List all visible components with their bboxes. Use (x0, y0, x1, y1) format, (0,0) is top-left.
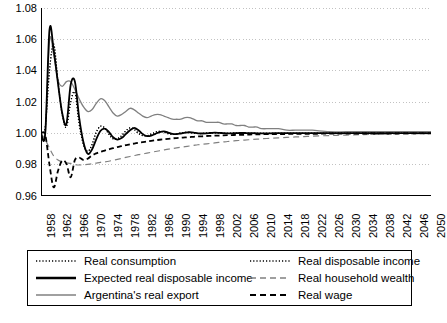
x-axis-tick-label: 1998 (215, 214, 226, 238)
legend-label: Argentina's real export (84, 289, 199, 301)
legend-item[interactable]: Real consumption (34, 255, 248, 267)
series-line-real-consumption (41, 44, 431, 151)
legend-line-swatch (248, 289, 292, 301)
legend-item[interactable]: Expected real disposable income (34, 272, 248, 284)
x-axis-labels: 1958196219661970197419781982198619901994… (41, 198, 433, 242)
y-axis-tick-label: 1.08 (0, 3, 37, 14)
y-axis-tick-label: 1.00 (0, 128, 37, 139)
x-axis-tick-label: 2022 (317, 214, 328, 238)
y-axis-tick-label: 1.06 (0, 34, 37, 45)
legend-item[interactable]: Real household wealth (248, 272, 420, 284)
legend-line-swatch (34, 289, 78, 301)
x-axis-tick-label: 2034 (368, 214, 379, 238)
legend-label: Real disposable income (298, 255, 420, 267)
y-axis-labels: 1.081.061.041.021.000.980.96 (0, 0, 37, 210)
chart-svg (41, 8, 431, 196)
x-axis-tick-label: 2010 (266, 214, 277, 238)
legend-label: Real wage (298, 289, 352, 301)
x-axis-tick-label: 1962 (62, 214, 73, 238)
x-axis-tick-label: 2046 (419, 214, 430, 238)
legend-line-swatch (34, 272, 78, 284)
x-axis-tick-label: 1958 (46, 214, 57, 238)
x-axis-tick-label: 1986 (164, 214, 175, 238)
y-axis-tick-label: 1.02 (0, 97, 37, 108)
x-axis-tick-label: 2018 (300, 214, 311, 238)
x-axis-tick-label: 2026 (334, 214, 345, 238)
series-line-real-household-wealth (41, 133, 431, 165)
x-axis-tick-label: 2050 (436, 214, 447, 238)
x-axis-tick-label: 2014 (283, 214, 294, 238)
x-axis-tick-label: 1994 (198, 214, 209, 238)
x-axis-tick-label: 2002 (232, 214, 243, 238)
x-axis-tick-label: 1966 (79, 214, 90, 238)
legend-grid: Real consumptionReal disposable incomeEx… (28, 251, 411, 305)
x-axis-tick-label: 2042 (402, 214, 413, 238)
x-axis-tick-label: 2006 (249, 214, 260, 238)
x-axis-tick-label: 2038 (385, 214, 396, 238)
x-axis-tick-label: 2030 (351, 214, 362, 238)
y-axis-tick-label: 0.98 (0, 159, 37, 170)
legend-line-swatch (248, 255, 292, 267)
legend-item[interactable]: Real disposable income (248, 255, 420, 267)
legend-label: Real household wealth (298, 272, 414, 284)
y-axis-tick-label: 0.96 (0, 191, 37, 202)
legend-line-swatch (34, 255, 78, 267)
series-line-real-disposable-income (41, 44, 431, 151)
legend-item[interactable]: Argentina's real export (34, 289, 248, 301)
legend-item[interactable]: Real wage (248, 289, 420, 301)
legend-label: Expected real disposable income (84, 272, 253, 284)
chart-legend: Real consumptionReal disposable incomeEx… (27, 250, 412, 306)
x-axis-tick-label: 1990 (181, 214, 192, 238)
x-axis-tick-label: 1970 (96, 214, 107, 238)
plot-area (41, 8, 431, 196)
x-axis-tick-label: 1982 (147, 214, 158, 238)
x-axis-tick-label: 1978 (130, 214, 141, 238)
legend-label: Real consumption (84, 255, 176, 267)
series-line-expected-real-disposable-income (41, 26, 431, 154)
y-axis-tick-label: 1.04 (0, 65, 37, 76)
x-axis-tick-label: 1974 (113, 214, 124, 238)
legend-line-swatch (248, 272, 292, 284)
series-line-argentina-s-real-export (41, 37, 431, 141)
